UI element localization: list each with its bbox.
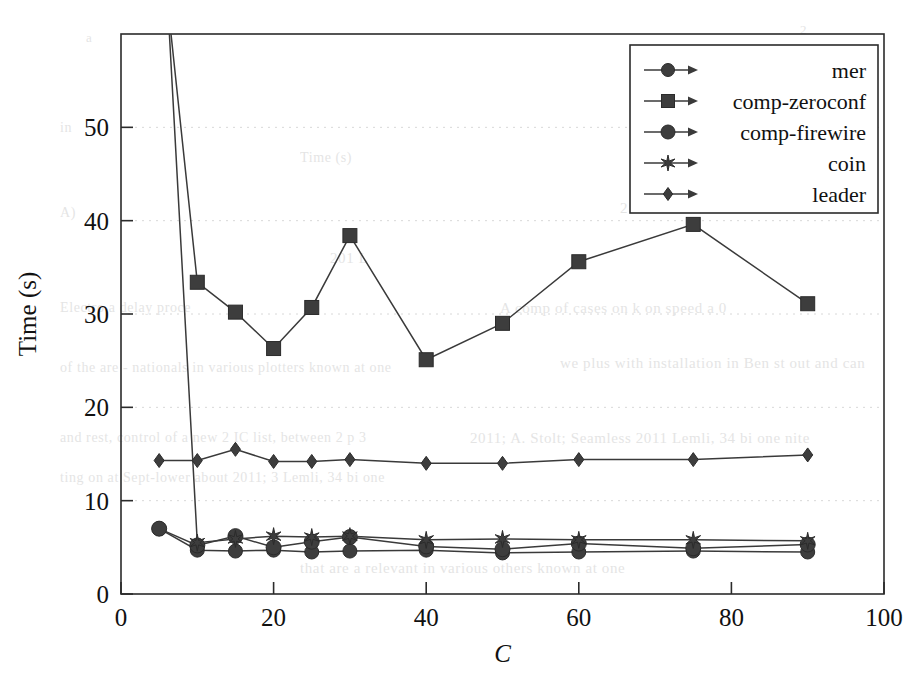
y-axis-title: Time (s)	[14, 272, 42, 357]
data-point-leader	[154, 454, 164, 468]
data-point-leader	[803, 448, 813, 462]
x-tick-label: 0	[115, 604, 128, 631]
y-tick-label: 0	[97, 581, 110, 608]
data-point-comp-zeroconf	[305, 300, 319, 314]
data-point-comp-zeroconf	[496, 316, 510, 330]
x-axis-title: C	[494, 640, 511, 667]
y-tick-label: 40	[84, 208, 109, 235]
data-point-comp-firewire	[152, 521, 167, 536]
data-point-leader	[345, 453, 355, 467]
y-axis-ticks: 01020304050	[84, 114, 133, 608]
legend-marker-filled-circle-icon	[661, 125, 675, 139]
y-tick-label: 10	[84, 488, 109, 515]
legend-label: comp-zeroconf	[733, 89, 867, 114]
data-point-comp-zeroconf	[267, 342, 281, 356]
legend-label: mer	[832, 58, 867, 83]
legend-label: coin	[828, 151, 866, 176]
series-leader	[154, 442, 813, 470]
x-axis-ticks: 020406080100	[115, 582, 903, 631]
x-tick-label: 60	[566, 604, 591, 631]
y-tick-label: 50	[84, 114, 109, 141]
x-tick-label: 100	[865, 604, 903, 631]
y-tick-label: 30	[84, 301, 109, 328]
legend-label: leader	[812, 182, 866, 207]
data-point-comp-zeroconf	[228, 305, 242, 319]
data-point-comp-zeroconf	[801, 297, 815, 311]
legend-marker-circle-icon	[662, 64, 675, 77]
data-point-leader	[269, 454, 279, 468]
time-vs-c-line-chart: 01020304050 020406080100 Time (s) C merc…	[0, 0, 924, 692]
data-point-leader	[688, 453, 698, 467]
legend-marker-square-icon	[662, 95, 675, 108]
figure-container: a2inVTime (s)2A)201 LElectro a delay pro…	[0, 0, 924, 692]
x-tick-label: 40	[414, 604, 439, 631]
chart-legend: mercomp-zeroconfcomp-firewirecoinleader	[630, 45, 878, 213]
data-point-leader	[230, 442, 240, 456]
data-point-leader	[574, 453, 584, 467]
x-tick-label: 20	[261, 604, 286, 631]
legend-label: comp-firewire	[740, 120, 866, 145]
data-point-mer	[343, 544, 357, 558]
data-point-comp-zeroconf	[419, 353, 433, 367]
data-point-comp-zeroconf	[686, 217, 700, 231]
data-point-comp-zeroconf	[572, 255, 586, 269]
x-tick-label: 80	[719, 604, 744, 631]
data-point-leader	[497, 456, 507, 470]
data-point-comp-zeroconf	[343, 229, 357, 243]
data-point-comp-zeroconf	[190, 275, 204, 289]
y-tick-label: 20	[84, 394, 109, 421]
data-point-leader	[421, 456, 431, 470]
data-point-leader	[307, 454, 317, 468]
